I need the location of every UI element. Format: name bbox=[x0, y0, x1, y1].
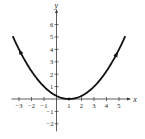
x-tick-label: −2 bbox=[28, 102, 35, 109]
y-tick-label: 6 bbox=[50, 21, 54, 28]
axes bbox=[12, 10, 131, 132]
y-tick-label: −2 bbox=[47, 120, 54, 127]
y-tick-label: 2 bbox=[50, 71, 53, 78]
x-tick-label: 5 bbox=[117, 102, 120, 109]
x-tick-label: 1 bbox=[67, 102, 70, 109]
x-tick-label: 2 bbox=[80, 102, 83, 109]
y-tick-label: 3 bbox=[50, 58, 53, 65]
y-tick-label: 5 bbox=[50, 33, 53, 40]
x-axis-label: x bbox=[132, 95, 137, 104]
x-tick-label: −3 bbox=[16, 102, 23, 109]
y-tick-label: −1 bbox=[47, 108, 54, 115]
parabola-graph: −3−2−112345654321−1−2 x y bbox=[0, 0, 145, 139]
x-tick-label: 4 bbox=[105, 102, 109, 109]
y-tick-label: 1 bbox=[50, 83, 53, 90]
parabola-curve bbox=[13, 36, 126, 99]
y-axis-label: y bbox=[54, 1, 59, 10]
y-tick-label: 4 bbox=[50, 46, 54, 53]
x-tick-label: 3 bbox=[92, 102, 95, 109]
parabola-path bbox=[13, 36, 126, 99]
